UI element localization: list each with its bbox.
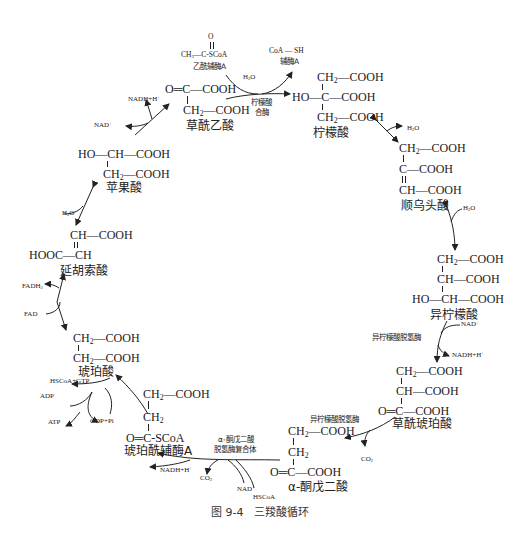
figure-caption: 图 9-4 三羧酸循环	[211, 507, 309, 518]
bond	[293, 438, 294, 445]
hscoa-gtp: HSCoA+GTP	[50, 378, 89, 385]
carbonyl-oxygen: O	[208, 33, 213, 41]
cis-aconitate-label: 顺乌头酸	[401, 200, 449, 212]
atp: ATP	[48, 419, 60, 426]
coa-sh-label: 辅酶A	[280, 58, 299, 66]
nadh-isocitrate: NADH+H+	[452, 352, 484, 359]
oxaloacetate-line2: CH2—COOH	[183, 104, 250, 116]
double-bond	[210, 42, 214, 49]
fumarate-label: 延胡索酸	[60, 265, 108, 277]
co2-akg: CO2	[200, 475, 212, 482]
nadh-akg: NADH+H+	[160, 467, 192, 474]
enzyme-isocitrate-dh-2: 异柠檬酸脱氢酶	[310, 416, 359, 424]
succinyl-coa-line1: CH2—COOH	[143, 388, 210, 400]
fumarate-line1: CH—COOH	[70, 229, 133, 241]
oxaloacetate-line1: O═C—COOH	[165, 83, 236, 95]
bond	[148, 401, 149, 409]
cis-aconitate-line3: CH—COOH	[399, 184, 462, 196]
nad-isocitrate: NAD+	[461, 321, 479, 328]
oxalosuccinate-label: 草酰琥珀酸	[392, 418, 452, 430]
enzyme-citrate-synthase-line1: 柠檬酸	[251, 99, 272, 107]
succinyl-coa-line3: O═C-SCoA	[126, 432, 185, 444]
citrate-label: 柠檬酸	[313, 127, 349, 139]
acetyl-coa-label: 乙酰辅酶A	[193, 63, 226, 71]
h2o-aconitase-1: H2O	[407, 125, 419, 132]
succinate-label: 琥珀酸	[78, 366, 114, 378]
akg-line2: CH2	[288, 446, 309, 458]
h2o-citrate-synthase: H2O	[243, 74, 255, 81]
enzyme-citrate-synthase-line2: 合酶	[255, 109, 269, 117]
bond	[148, 424, 149, 431]
citrate-line1: CH2—COOH	[317, 71, 384, 83]
double-bond	[402, 176, 406, 183]
bond	[403, 155, 404, 162]
fad: FAD	[24, 311, 37, 318]
gdp-pi: GDP+Pi	[90, 418, 114, 425]
hscoa-akg: HSCoA	[253, 494, 275, 501]
fadh2: FADH2	[22, 283, 43, 290]
akg-label: α-酮戊二酸	[288, 481, 348, 493]
citrate-line3: CH2—COOH	[317, 111, 384, 123]
adp: ADP	[40, 393, 54, 400]
enzyme-isocitrate-dh-1: 异柠檬酸脱氢酶	[372, 334, 421, 342]
malate-label: 苹果酸	[106, 182, 142, 194]
co2-isocitrate: CO2	[361, 456, 373, 463]
fumarate-line2: HOOC—CH	[29, 249, 92, 261]
oxalosuccinate-line2: CH—COOH	[396, 385, 459, 397]
succinate-line2: CH2—COOH	[73, 352, 140, 364]
oxalosuccinate-line3: O═C—COOH	[378, 405, 449, 417]
nad-malate: NAD+	[94, 122, 112, 129]
oxaloacetate-label: 草酰乙酸	[186, 120, 234, 132]
succinyl-coa-line2: CH2	[143, 411, 164, 423]
coa-sh-formula: CoA — SH	[269, 47, 304, 55]
akg-line1: CH2—COOH	[288, 425, 355, 437]
citrate-line2: HO—C—COOH	[292, 91, 375, 103]
akg-line3: O═C—COOH	[270, 466, 341, 478]
malate-line1: HO—CH—COOH	[78, 148, 170, 160]
isocitrate-line1: CH2—COOH	[437, 253, 504, 265]
h2o-aconitase-2: H2O	[463, 205, 475, 212]
isocitrate-line3: HO—CH—COOH	[412, 293, 504, 305]
enzyme-akgdh-2: 脱氢酶复合体	[214, 446, 256, 454]
acetyl-coa-formula: CH3—C-SCoA	[181, 51, 227, 59]
nadh-malate: NADH+H+	[128, 96, 160, 103]
malate-line2: CH2—COOH	[103, 168, 170, 180]
cis-aconitate-line2: C—COOH	[399, 163, 453, 175]
h2o-fumarase: H2O	[62, 210, 74, 217]
succinate-line1: CH2—COOH	[73, 332, 140, 344]
cis-aconitate-line1: CH2—COOH	[399, 142, 466, 154]
nad-akg: NAD+	[237, 486, 255, 493]
isocitrate-line2: CH—COOH	[437, 273, 500, 285]
oxalosuccinate-line1: CH2—COOH	[396, 365, 463, 377]
succinyl-coa-label: 琥珀酰辅酶A	[124, 445, 192, 457]
enzyme-akgdh-1: α-酮戊二酸	[218, 436, 254, 444]
